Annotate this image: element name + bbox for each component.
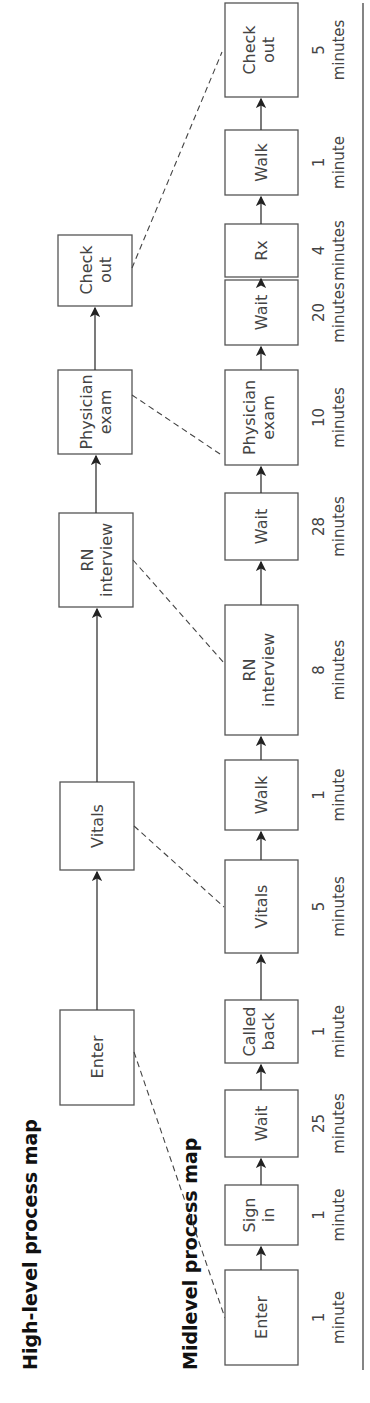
ml-duration-unit: minutes xyxy=(330,496,348,557)
ml-duration-value: 1 xyxy=(310,1313,328,1323)
hl-label: interview xyxy=(97,523,116,597)
ml-duration-value: 1 xyxy=(310,1210,328,1220)
ml-duration-unit: minutes xyxy=(330,387,348,448)
ml-label: Wait xyxy=(252,295,271,330)
ml-duration-value: 8 xyxy=(310,665,328,675)
ml-label: Called xyxy=(240,1007,259,1057)
ml-label: Walk xyxy=(252,143,271,182)
ml-duration-value: 20 xyxy=(310,303,328,322)
ml-duration-value: 1 xyxy=(310,790,328,800)
ml-duration-unit: minute xyxy=(330,1189,348,1242)
ml-label: RN xyxy=(240,658,259,681)
ml-duration-value: 1 xyxy=(310,1027,328,1037)
ml-duration-value: 25 xyxy=(310,1114,328,1133)
process-map-diagram: High-level process map Midlevel process … xyxy=(0,0,370,1403)
ml-label: Physician xyxy=(240,380,259,455)
hl-label: exam xyxy=(96,390,115,434)
ml-duration-unit: minute xyxy=(330,1005,348,1058)
hl-label: Enter xyxy=(88,1035,107,1078)
high-level-map: Enter Vitals RN interview Physician exam… xyxy=(58,235,134,1105)
ml-label: Walk xyxy=(252,775,271,814)
hl-label: Vitals xyxy=(88,804,107,848)
ml-label-2: back xyxy=(259,1012,278,1051)
ml-duration-unit: minutes xyxy=(330,220,348,281)
ml-duration-value: 1 xyxy=(310,158,328,168)
ml-duration-unit: minutes xyxy=(330,1093,348,1154)
ml-duration-value: 28 xyxy=(310,517,328,536)
ml-label: Rx xyxy=(252,240,271,261)
connector-vitals xyxy=(134,826,224,907)
ml-label-2: out xyxy=(259,37,278,63)
high-level-title: High-level process map xyxy=(19,1119,41,1370)
ml-duration-unit: minute xyxy=(330,769,348,822)
ml-label: Wait xyxy=(252,1106,271,1141)
ml-label: Vitals xyxy=(252,885,271,929)
ml-label-2: interview xyxy=(259,633,278,707)
ml-duration-unit: minutes xyxy=(330,282,348,343)
ml-label: Enter xyxy=(252,1296,271,1339)
ml-duration-value: 5 xyxy=(310,45,328,55)
ml-duration-value: 10 xyxy=(310,408,328,427)
ml-label-2: in xyxy=(259,1208,278,1223)
midlevel-title: Midlevel process map xyxy=(179,1138,201,1370)
ml-duration-unit: minutes xyxy=(330,639,348,700)
ml-label: Check xyxy=(240,25,259,75)
ml-duration-unit: minute xyxy=(330,1291,348,1344)
midlevel-map: Enter1minuteSignin1minuteWait25minutesCa… xyxy=(225,3,348,1365)
ml-duration-unit: minutes xyxy=(330,876,348,937)
connector-rn xyxy=(133,560,224,663)
hl-label: Physician xyxy=(77,374,96,449)
ml-duration-unit: minute xyxy=(330,136,348,189)
ml-duration-value: 5 xyxy=(310,902,328,912)
ml-label: Wait xyxy=(252,509,271,544)
hl-label: Check xyxy=(77,245,96,295)
ml-duration-value: 4 xyxy=(310,246,328,256)
ml-label-2: exam xyxy=(259,395,278,439)
ml-duration-unit: minutes xyxy=(330,19,348,80)
hl-label: RN xyxy=(78,548,97,571)
connector-checkout xyxy=(132,52,222,268)
hl-label: out xyxy=(96,257,115,283)
ml-label: Sign xyxy=(240,1198,259,1233)
connector-physician xyxy=(132,395,223,456)
